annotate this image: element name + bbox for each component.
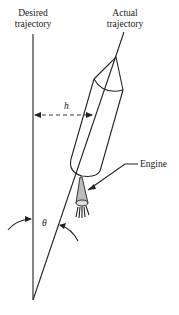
actual-trajectory-line xyxy=(33,32,124,300)
engine-nozzle xyxy=(76,177,89,218)
rocket-body xyxy=(70,57,123,176)
theta-arrow-right-icon xyxy=(59,223,66,229)
h-arrow-left-icon xyxy=(34,112,41,118)
engine-leader-line xyxy=(88,164,138,190)
h-arrow-right-icon xyxy=(86,112,93,118)
rocket-diagram: Desired trajectory Actual trajectory Eng… xyxy=(0,0,179,315)
theta-arrow-left-icon xyxy=(25,216,32,222)
actual-trajectory-label-line2: trajectory xyxy=(107,19,144,29)
theta-label: θ xyxy=(42,218,47,228)
engine-label: Engine xyxy=(140,159,167,169)
actual-trajectory-label-line1: Actual xyxy=(112,8,138,18)
h-label: h xyxy=(64,101,69,111)
desired-trajectory-label-line2: trajectory xyxy=(15,19,52,29)
desired-trajectory-label-line1: Desired xyxy=(18,8,48,18)
